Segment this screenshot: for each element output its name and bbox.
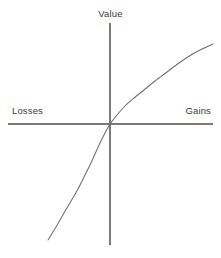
value-function-figure: Value Losses Gains bbox=[0, 0, 221, 258]
y-axis-label-value: Value bbox=[0, 8, 221, 19]
curve-group bbox=[48, 44, 213, 240]
axes-group bbox=[8, 23, 213, 245]
x-axis-label-gains: Gains bbox=[0, 105, 211, 116]
value-function-plot bbox=[0, 0, 221, 258]
value-curve-losses bbox=[48, 124, 110, 240]
